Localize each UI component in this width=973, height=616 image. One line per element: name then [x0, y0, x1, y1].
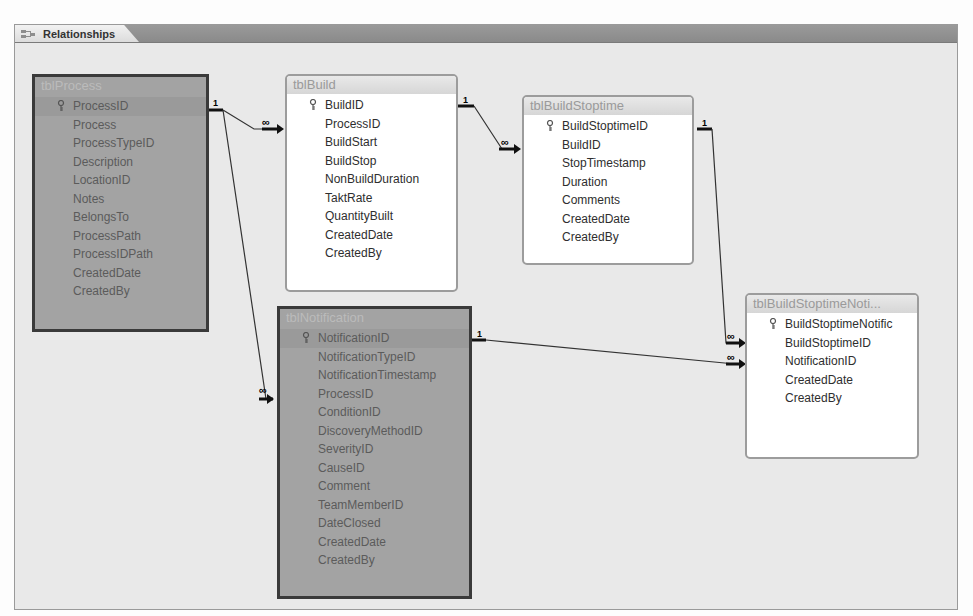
field-row[interactable]: DateClosed [280, 514, 469, 533]
field-row[interactable]: ConditionID [280, 403, 469, 422]
field-row[interactable]: NotificationID [747, 352, 917, 371]
field-row[interactable]: LocationID [35, 171, 206, 190]
table-tblProcess[interactable]: tblProcess ProcessID Process ProcessType… [32, 74, 209, 332]
field-row[interactable]: CreatedDate [524, 210, 692, 229]
field-row[interactable]: CreatedDate [35, 264, 206, 283]
table-title[interactable]: tblBuildStoptimeNoti... [747, 295, 917, 313]
table-tblBuild[interactable]: tblBuild BuildID ProcessID BuildStart Bu… [285, 74, 458, 292]
field-row[interactable]: BuildID [287, 96, 456, 115]
primary-key-icon [302, 332, 310, 344]
field-row[interactable]: BuildStoptimeNotific [747, 315, 917, 334]
field-row[interactable]: TeamMemberID [280, 496, 469, 515]
field-row[interactable]: DiscoveryMethodID [280, 422, 469, 441]
field-row[interactable]: NonBuildDuration [287, 170, 456, 189]
primary-key-icon [309, 99, 317, 111]
cardinality-many: ∞ [259, 384, 267, 396]
document-tab-strip: Relationships [15, 25, 957, 43]
primary-key-icon [57, 100, 65, 112]
primary-key-icon [769, 318, 777, 330]
field-row[interactable]: ProcessPath [35, 227, 206, 246]
cardinality-many: ∞ [262, 116, 270, 128]
table-title[interactable]: tblBuildStoptime [524, 97, 692, 115]
cardinality-one: 1 [702, 118, 707, 128]
field-row[interactable]: ProcessID [287, 115, 456, 134]
field-row[interactable]: StopTimestamp [524, 154, 692, 173]
field-row[interactable]: NotificationID [280, 329, 469, 348]
table-tblBuildStoptime[interactable]: tblBuildStoptime BuildStoptimeID BuildID… [522, 95, 694, 265]
field-row[interactable]: BuildStop [287, 152, 456, 171]
field-row[interactable]: Notes [35, 190, 206, 209]
field-row[interactable]: BuildStart [287, 133, 456, 152]
field-row[interactable]: SeverityID [280, 440, 469, 459]
field-row[interactable]: BelongsTo [35, 208, 206, 227]
field-row[interactable]: QuantityBuilt [287, 207, 456, 226]
table-title[interactable]: tblProcess [35, 77, 206, 95]
field-row[interactable]: NotificationTypeID [280, 348, 469, 367]
primary-key-icon [546, 120, 554, 132]
tab-relationships[interactable]: Relationships [15, 25, 139, 42]
field-row[interactable]: BuildID [524, 136, 692, 155]
field-row[interactable]: CreatedBy [287, 244, 456, 263]
field-row[interactable]: CreatedDate [747, 371, 917, 390]
table-tblBuildStoptimeNotification[interactable]: tblBuildStoptimeNoti... BuildStoptimeNot… [745, 293, 919, 459]
field-row[interactable]: TaktRate [287, 189, 456, 208]
field-row[interactable]: BuildStoptimeID [747, 334, 917, 353]
field-row[interactable]: Process [35, 116, 206, 135]
field-row[interactable]: ProcessID [280, 385, 469, 404]
table-title[interactable]: tblNotification [280, 309, 469, 327]
field-row[interactable]: CreatedBy [524, 228, 692, 247]
field-row[interactable]: Comment [280, 477, 469, 496]
relationships-window: Relationships [14, 24, 958, 610]
field-row[interactable]: NotificationTimestamp [280, 366, 469, 385]
field-row[interactable]: ProcessTypeID [35, 134, 206, 153]
table-tblNotification[interactable]: tblNotification NotificationID Notificat… [277, 306, 472, 599]
field-row[interactable]: ProcessIDPath [35, 245, 206, 264]
field-row[interactable]: CreatedBy [280, 551, 469, 570]
cardinality-many: ∞ [727, 330, 735, 342]
field-row[interactable]: ProcessID [35, 97, 206, 116]
cardinality-many: ∞ [501, 136, 509, 148]
relationships-canvas[interactable]: 1 ∞ ∞ 1 ∞ 1 ∞ ∞ 1 tblProcess ProcessID P… [15, 43, 957, 609]
field-row[interactable]: CreatedBy [35, 282, 206, 301]
field-row[interactable]: BuildStoptimeID [524, 117, 692, 136]
field-row[interactable]: CreatedBy [747, 389, 917, 408]
field-row[interactable]: CreatedDate [280, 533, 469, 552]
relationships-icon [21, 29, 35, 39]
cardinality-one: 1 [213, 98, 218, 108]
field-row[interactable]: Description [35, 153, 206, 172]
cardinality-one: 1 [477, 329, 482, 339]
field-row[interactable]: CreatedDate [287, 226, 456, 245]
cardinality-one: 1 [463, 95, 468, 105]
field-row[interactable]: Duration [524, 173, 692, 192]
table-title[interactable]: tblBuild [287, 76, 456, 94]
field-row[interactable]: CauseID [280, 459, 469, 478]
cardinality-many: ∞ [727, 351, 735, 363]
field-row[interactable]: Comments [524, 191, 692, 210]
tab-label: Relationships [43, 28, 115, 40]
